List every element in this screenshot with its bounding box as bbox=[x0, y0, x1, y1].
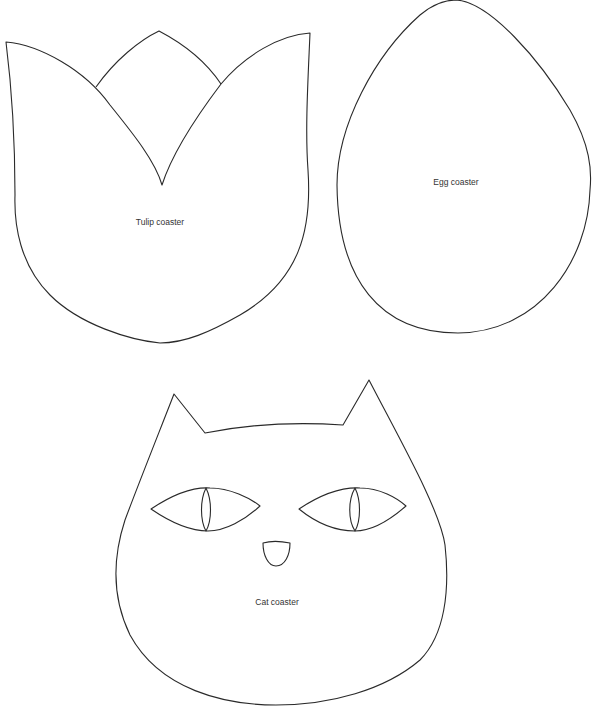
cat-coaster-label: Cat coaster bbox=[255, 597, 298, 607]
cat-left-pupil bbox=[202, 488, 211, 531]
egg-coaster-shape bbox=[337, 0, 591, 333]
tulip-outline bbox=[6, 33, 310, 343]
cat-left-eye bbox=[151, 488, 260, 531]
cat-right-pupil bbox=[350, 488, 360, 531]
cat-nose bbox=[263, 542, 290, 567]
tulip-coaster-label: Tulip coaster bbox=[136, 217, 184, 227]
tulip-center-petal bbox=[96, 31, 221, 87]
coaster-templates-canvas bbox=[0, 0, 607, 719]
cat-coaster-shape bbox=[116, 380, 447, 705]
tulip-coaster-shape bbox=[6, 31, 310, 343]
egg-coaster-label: Egg coaster bbox=[433, 177, 478, 187]
egg-outline bbox=[337, 0, 591, 333]
cat-head-outline bbox=[116, 380, 447, 705]
